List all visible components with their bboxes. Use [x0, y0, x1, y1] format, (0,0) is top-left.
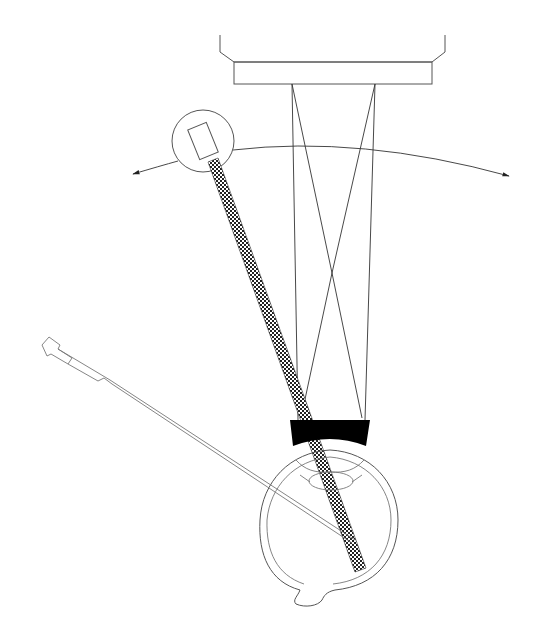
- eye-surgery-diagram: [0, 0, 541, 641]
- light-source: [172, 110, 234, 172]
- contact-lens: [290, 420, 370, 446]
- microscope-objective: [220, 35, 445, 84]
- light-beam: [208, 158, 366, 572]
- rotation-arc: [133, 146, 509, 176]
- optical-rays: [292, 84, 375, 420]
